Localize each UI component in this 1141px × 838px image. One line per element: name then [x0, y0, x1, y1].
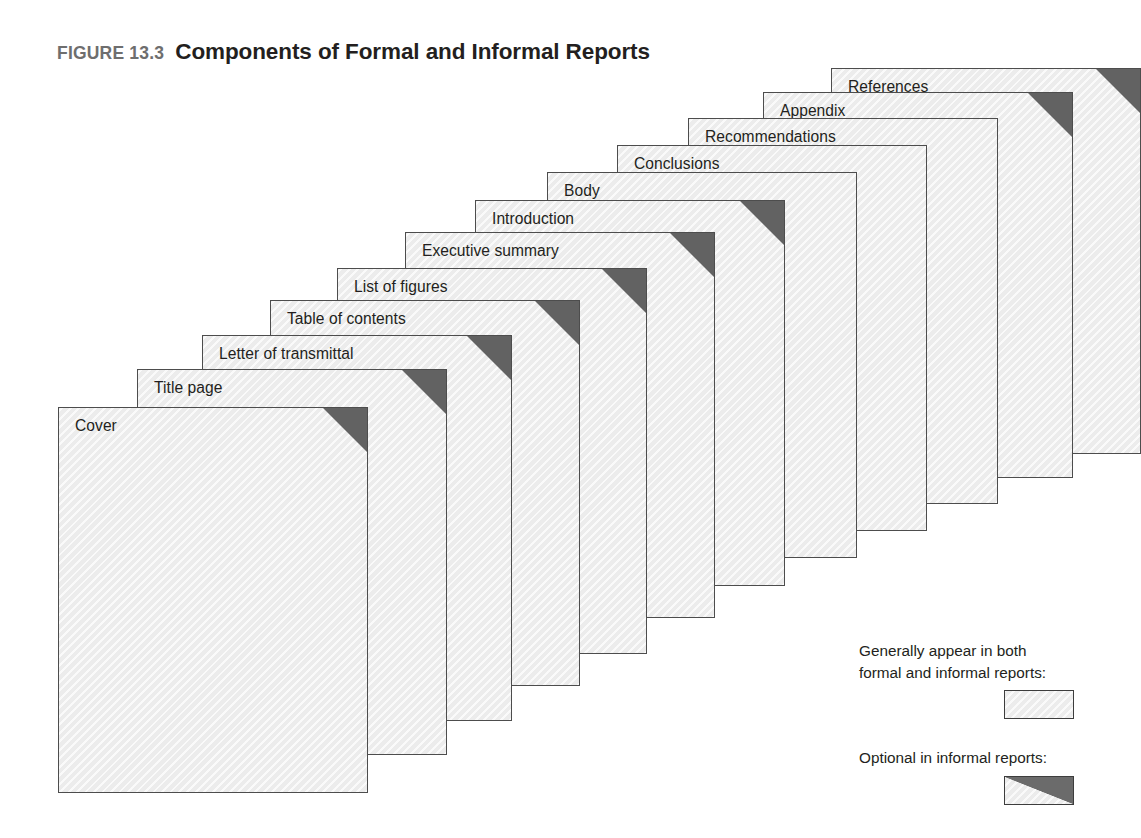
optional-corner-marker — [740, 201, 784, 245]
report-sheet-label: Title page — [154, 379, 222, 397]
report-sheet-label: Introduction — [492, 210, 574, 228]
legend-entry-text: Optional in informal reports: — [859, 747, 1074, 769]
legend-entry: Generally appear in bothformal and infor… — [859, 640, 1074, 719]
optional-corner-marker — [323, 408, 367, 452]
legend-swatch-standard — [1004, 690, 1074, 719]
legend-swatch-optional — [1004, 776, 1074, 805]
legend-swatch-row — [859, 690, 1074, 719]
optional-corner-marker — [602, 269, 646, 313]
optional-corner-marker — [1028, 93, 1072, 137]
legend: Generally appear in bothformal and infor… — [859, 640, 1074, 833]
report-sheet-label: List of figures — [354, 278, 448, 296]
report-sheet-label: Cover — [75, 417, 117, 435]
report-sheet-label: Letter of transmittal — [219, 345, 354, 363]
report-sheet-label: Table of contents — [287, 310, 406, 328]
report-sheet: Cover — [58, 407, 368, 793]
legend-entry: Optional in informal reports: — [859, 747, 1074, 805]
optional-corner-marker — [402, 370, 446, 414]
report-sheet-label: Conclusions — [634, 155, 720, 173]
optional-corner-marker — [670, 233, 714, 277]
report-sheet-label: Executive summary — [422, 242, 559, 260]
report-sheet-label: Recommendations — [705, 128, 836, 146]
legend-swatch-row — [859, 776, 1074, 805]
optional-corner-marker — [535, 301, 579, 345]
optional-corner-marker — [467, 336, 511, 380]
optional-corner-marker — [1096, 69, 1140, 113]
report-sheet-label: Body — [564, 182, 600, 200]
legend-entry-text: Generally appear in both — [859, 640, 1074, 662]
legend-entry-text: formal and informal reports: — [859, 662, 1074, 684]
